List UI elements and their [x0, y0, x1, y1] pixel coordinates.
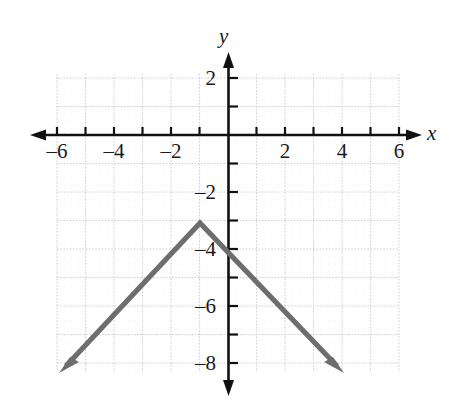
x-tick-label-neg6: –6 [42, 141, 72, 162]
y-axis-bottom-arrowhead [223, 380, 234, 396]
y-axis-top-arrowhead [223, 52, 234, 68]
x-tick-label-pos6: 6 [389, 141, 409, 162]
coordinate-plane-graph: y x –6 –4 –2 2 4 6 2 –2 –4 –6 –8 [0, 0, 459, 418]
y-axis-label: y [219, 26, 228, 47]
y-tick-label-neg6: –6 [188, 296, 216, 317]
x-tick-label-neg2: –2 [156, 141, 186, 162]
x-axis-right-arrowhead [406, 130, 422, 141]
y-tick-label-neg8: –8 [188, 353, 216, 374]
x-tick-label-pos2: 2 [275, 141, 295, 162]
y-tick-label-neg4: –4 [188, 239, 216, 260]
x-axis-left-arrowhead [30, 130, 46, 141]
plot-area [0, 0, 459, 418]
y-tick-label-neg2: –2 [188, 182, 216, 203]
x-tick-label-pos4: 4 [332, 141, 352, 162]
y-tick-label-pos2: 2 [194, 68, 216, 89]
x-tick-label-neg4: –4 [99, 141, 129, 162]
x-axis-label: x [427, 123, 436, 144]
